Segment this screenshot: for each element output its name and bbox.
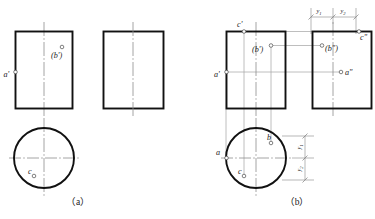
- label-c-side-panel-b: c": [360, 33, 368, 42]
- point-marker-c-top: [32, 174, 36, 178]
- dim-label-y2-horizontal: y2: [339, 7, 346, 16]
- point-marker-a-front: [14, 70, 18, 74]
- label-c-front-panel-b: c': [237, 20, 243, 29]
- point-marker-c-top-panel-b: [242, 174, 246, 178]
- dim-label-y1-horizontal-sub: 1: [319, 11, 321, 16]
- panel-a: a' (b') c （a）: [4, 22, 164, 207]
- point-marker-a-top-panel-b: [225, 156, 229, 160]
- dim-label-y2-vertical-sub: 2: [299, 166, 304, 169]
- point-marker-b-side-panel-b: [320, 44, 324, 48]
- technical-drawing-figure: a' (b') c （a）: [0, 0, 375, 219]
- label-a-side-panel-b: a": [345, 68, 353, 77]
- point-marker-b-front-panel-b: [269, 44, 273, 48]
- label-c-top-panel-a: c: [28, 167, 32, 176]
- point-marker-a-side-panel-b: [339, 70, 343, 74]
- dim-label-y1-vertical-sub: 1: [299, 144, 304, 146]
- point-marker-b-front: [60, 45, 64, 49]
- panel-b: c' (b') a' (b") c" a" a b c y1 y2 y1 y2: [214, 7, 372, 207]
- point-marker-c-front-panel-b: [242, 30, 246, 34]
- label-b-top-panel-b: b: [267, 133, 271, 142]
- panel-b-side-view-rect: [313, 32, 372, 109]
- panel-b-caption: （b）: [285, 196, 310, 207]
- label-b-front-panel-b: (b'): [252, 45, 264, 54]
- label-b-side-panel-b: (b"): [325, 44, 338, 53]
- dim-label-y1-horizontal: y1: [315, 7, 321, 16]
- label-a-front-panel-a: a': [4, 70, 10, 79]
- label-a-front-panel-b: a': [214, 70, 220, 79]
- dim-label-y1-vertical: y1: [295, 144, 304, 150]
- panel-a-caption: （a）: [66, 196, 90, 207]
- point-marker-a-front-panel-b: [225, 70, 229, 74]
- panel-a-side-view-rect: [104, 32, 164, 109]
- label-c-top-panel-b: c: [238, 167, 242, 176]
- dim-label-y2-horizontal-sub: 2: [343, 11, 346, 16]
- label-b-front-panel-a: (b'): [51, 51, 63, 60]
- label-a-top-panel-b: a: [216, 148, 220, 157]
- projection-drawing-svg: a' (b') c （a）: [0, 0, 375, 219]
- dim-label-y2-vertical: y2: [295, 166, 304, 173]
